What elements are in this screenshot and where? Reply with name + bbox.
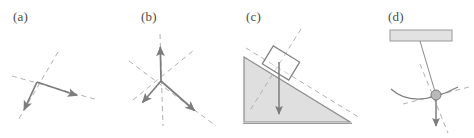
panel-d-label: (d)	[388, 10, 404, 23]
block-on-incline	[262, 46, 299, 80]
dashed-line-steep	[17, 52, 58, 122]
panel-c-label: (c)	[246, 10, 261, 23]
down-left-arrow	[24, 82, 37, 110]
right-arrow	[37, 82, 77, 96]
dashed-line-diagonal-down-right	[129, 61, 216, 126]
down-left-arrow	[143, 81, 162, 103]
ceiling-bar	[390, 30, 452, 41]
incline-wedge	[244, 57, 350, 122]
dashed-line-shallow	[12, 76, 98, 100]
pendulum-bob	[431, 90, 441, 100]
swing-arc	[391, 87, 458, 99]
dashed-line-parallel-to-incline	[246, 48, 360, 118]
dashed-line-normal-to-incline	[249, 29, 301, 112]
panel-a-label: (a)	[13, 10, 28, 23]
dashed-line-diagonal-up-right	[133, 50, 194, 100]
figure-root: (a) (b)	[0, 0, 474, 138]
panel-c: (c)	[238, 0, 372, 138]
down-right-arrow	[161, 81, 195, 111]
up-arrow	[160, 47, 161, 81]
dashed-line-radial	[420, 64, 448, 133]
dashed-line-vertical	[160, 34, 163, 126]
panel-b: (b)	[128, 0, 238, 138]
dashed-line-tangent	[403, 87, 469, 104]
panel-a: (a)	[0, 0, 128, 138]
panel-d: (d)	[372, 0, 474, 138]
panel-b-label: (b)	[141, 10, 157, 23]
pendulum-string	[420, 41, 436, 95]
